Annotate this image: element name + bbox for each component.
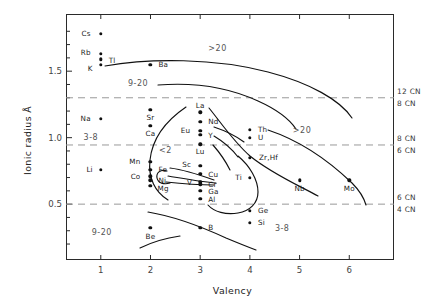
point-label: Mg bbox=[157, 185, 168, 192]
region-label: 9-20 bbox=[92, 229, 112, 237]
x-tick-label: 4 bbox=[247, 266, 252, 275]
point-label: Sc bbox=[182, 161, 191, 168]
point-label: Eu bbox=[181, 127, 191, 134]
point-label: Lu bbox=[196, 149, 205, 156]
point-label: Fe bbox=[158, 166, 167, 173]
x-axis-title: Valency bbox=[213, 286, 252, 295]
x-tick-label: 6 bbox=[347, 266, 352, 275]
cn-label-below: 8 CN bbox=[397, 100, 416, 107]
y-tick-label: 0.5 bbox=[38, 200, 62, 209]
point-label: Sr bbox=[147, 114, 155, 121]
region-label: <2 bbox=[159, 147, 172, 155]
cn-label-below: 4 CN bbox=[397, 206, 416, 213]
point-label: Mn bbox=[129, 158, 140, 165]
plot-frame bbox=[66, 14, 394, 260]
region-label: >20 bbox=[208, 45, 226, 53]
region-label: 9-20 bbox=[128, 80, 148, 88]
region-label: >20 bbox=[293, 127, 311, 135]
x-tick-label: 2 bbox=[148, 266, 153, 275]
y-tick-label: 1.5 bbox=[38, 67, 62, 76]
point-label: Al bbox=[208, 196, 215, 203]
point-label: Co bbox=[131, 174, 141, 181]
point-label: Y bbox=[208, 132, 213, 139]
y-tick-label: 1.0 bbox=[38, 133, 62, 142]
point-label: V bbox=[187, 179, 192, 186]
point-label: Mo bbox=[344, 186, 355, 193]
cn-label-above: 8 CN bbox=[397, 135, 416, 142]
point-label: K bbox=[88, 65, 93, 72]
point-label: Tl bbox=[109, 58, 116, 65]
point-label: Zr,Hf bbox=[259, 154, 278, 161]
point-label: Nb bbox=[294, 186, 304, 193]
point-label: Cu bbox=[208, 171, 218, 178]
point-label: Ge bbox=[258, 207, 268, 214]
region-label: 3-8 bbox=[84, 134, 99, 142]
point-label: Nd bbox=[208, 118, 218, 125]
point-label: Ti bbox=[235, 174, 242, 181]
y-axis-title: Ionic radius Å bbox=[22, 106, 33, 175]
point-label: Rb bbox=[81, 49, 91, 56]
point-label: U bbox=[258, 134, 263, 141]
point-label: Ca bbox=[146, 130, 156, 137]
cn-label-above: 6 CN bbox=[397, 194, 416, 201]
point-label: Si bbox=[258, 219, 265, 226]
point-label: Be bbox=[146, 233, 156, 240]
point-label: B bbox=[208, 224, 213, 231]
point-label: Na bbox=[81, 115, 91, 122]
x-tick-label: 5 bbox=[297, 266, 302, 275]
point-label: La bbox=[196, 103, 205, 110]
x-tick-label: 1 bbox=[98, 266, 103, 275]
region-label: 3-8 bbox=[275, 225, 290, 233]
cn-label-above: 12 CN bbox=[397, 88, 421, 95]
chart-root: 1234560.51.01.512 CN8 CN8 CN6 CN6 CN4 CN… bbox=[0, 0, 428, 306]
point-label: Li bbox=[86, 166, 92, 173]
point-label: Ba bbox=[158, 61, 168, 68]
x-tick-label: 3 bbox=[197, 266, 202, 275]
cn-label-below: 6 CN bbox=[397, 147, 416, 154]
point-label: Cs bbox=[82, 30, 91, 37]
